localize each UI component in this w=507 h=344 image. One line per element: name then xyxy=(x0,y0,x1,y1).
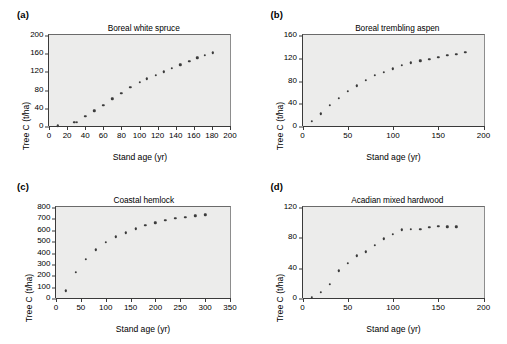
data-point xyxy=(383,238,385,240)
x-axis-tick xyxy=(438,298,439,302)
y-axis-tick-label: 80 xyxy=(35,86,44,94)
panel-a-plot-area: 0204060801001201401601802000408012016020… xyxy=(48,34,231,126)
x-axis-tick xyxy=(194,126,195,130)
y-axis-tick-label: 0 xyxy=(293,122,297,130)
y-axis-tick xyxy=(45,108,49,109)
x-axis-tick-label: 120 xyxy=(151,132,164,140)
data-point xyxy=(428,58,430,60)
y-axis-tick xyxy=(52,299,56,300)
x-axis-tick xyxy=(303,298,304,302)
x-axis-tick-label: 150 xyxy=(432,304,445,312)
y-axis-tick xyxy=(299,36,303,37)
data-point xyxy=(337,97,339,99)
x-axis-tick xyxy=(106,298,107,302)
y-axis-tick xyxy=(299,81,303,82)
data-point xyxy=(171,67,173,69)
panel-b-ylabel: Tree C (t/ha) xyxy=(275,102,285,150)
data-point xyxy=(374,244,376,246)
data-point xyxy=(401,229,403,231)
x-axis-tick xyxy=(348,298,349,302)
data-point xyxy=(446,226,448,228)
y-axis-tick xyxy=(299,127,303,128)
data-point xyxy=(154,222,156,224)
y-axis-tick xyxy=(52,208,56,209)
y-axis-tick xyxy=(299,104,303,105)
y-axis-tick xyxy=(52,287,56,288)
x-axis-tick-label: 350 xyxy=(223,304,236,312)
x-axis-tick-label: 150 xyxy=(432,132,445,140)
panel-c-ylabel: Tree C (t/ha) xyxy=(24,274,34,322)
x-axis-tick xyxy=(85,126,86,130)
data-point xyxy=(102,104,104,106)
x-axis-tick xyxy=(67,126,68,130)
y-axis-tick-label: 0 xyxy=(39,122,43,130)
x-axis-tick xyxy=(158,126,159,130)
data-point xyxy=(374,74,376,76)
data-point xyxy=(65,289,67,291)
panel-b: (b) Boreal trembling aspen 0501001502000… xyxy=(254,0,507,172)
y-axis-tick-label: 80 xyxy=(288,233,297,241)
data-point xyxy=(392,67,394,69)
x-axis-tick xyxy=(230,298,231,302)
data-point xyxy=(85,258,87,260)
data-point xyxy=(164,219,166,221)
y-axis-tick-label: 120 xyxy=(30,67,43,75)
y-axis-tick-label: 160 xyxy=(30,49,43,57)
y-axis-tick xyxy=(52,242,56,243)
y-axis-tick xyxy=(52,276,56,277)
data-point xyxy=(383,71,385,73)
x-axis-tick-label: 50 xyxy=(76,304,85,312)
x-axis-tick xyxy=(180,298,181,302)
x-axis-tick xyxy=(56,298,57,302)
data-point xyxy=(105,241,107,243)
data-point xyxy=(194,215,196,217)
four-panel-scatter-figure: (a) Boreal white spruce 0204060801001201… xyxy=(0,0,507,344)
panel-c-tag: (c) xyxy=(17,181,29,192)
x-axis-tick-label: 60 xyxy=(99,132,108,140)
x-axis-tick xyxy=(484,126,485,130)
x-axis-tick xyxy=(131,298,132,302)
x-axis-tick-label: 200 xyxy=(477,132,490,140)
data-point xyxy=(188,60,190,62)
x-axis-tick xyxy=(176,126,177,130)
y-axis-tick-label: 0 xyxy=(46,294,50,302)
x-axis-tick xyxy=(140,126,141,130)
x-axis-tick xyxy=(212,126,213,130)
x-axis-tick xyxy=(155,298,156,302)
data-point xyxy=(455,226,457,228)
data-point xyxy=(155,74,157,76)
x-axis-tick-label: 0 xyxy=(300,304,304,312)
y-axis-tick xyxy=(45,127,49,128)
data-point xyxy=(212,52,214,54)
data-point xyxy=(144,224,146,226)
x-axis-tick-label: 160 xyxy=(187,132,200,140)
y-axis-tick-label: 40 xyxy=(35,104,44,112)
data-point xyxy=(328,283,330,285)
x-axis-tick xyxy=(81,298,82,302)
x-axis-tick-label: 100 xyxy=(133,132,146,140)
y-axis-tick xyxy=(45,90,49,91)
y-axis-tick-label: 300 xyxy=(37,260,50,268)
y-axis-tick-label: 500 xyxy=(37,237,50,245)
data-point xyxy=(365,79,367,81)
y-axis-tick xyxy=(45,72,49,73)
x-axis-tick xyxy=(484,298,485,302)
data-point xyxy=(111,98,113,100)
data-point xyxy=(419,228,421,230)
data-point xyxy=(75,271,77,273)
data-point xyxy=(138,81,140,83)
y-axis-tick-label: 40 xyxy=(288,264,297,272)
data-point xyxy=(95,248,97,250)
y-axis-tick xyxy=(52,253,56,254)
x-axis-tick-label: 40 xyxy=(81,132,90,140)
y-axis-tick-label: 400 xyxy=(37,249,50,257)
y-axis-tick-label: 600 xyxy=(37,226,50,234)
y-axis-tick xyxy=(52,230,56,231)
data-point xyxy=(437,225,439,227)
y-axis-tick xyxy=(299,268,303,269)
panel-a-tag: (a) xyxy=(17,9,29,20)
panel-a: (a) Boreal white spruce 0204060801001201… xyxy=(0,0,254,172)
y-axis-tick-label: 120 xyxy=(284,54,297,62)
x-axis-tick-label: 80 xyxy=(117,132,126,140)
data-point xyxy=(196,57,198,59)
